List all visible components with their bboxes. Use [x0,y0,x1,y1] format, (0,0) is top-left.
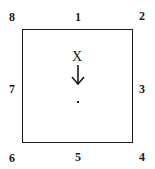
position-label-8: 8 [9,11,15,23]
position-label-4: 4 [139,151,145,163]
x-marker-label: X [72,50,82,64]
position-label-5: 5 [75,151,81,163]
position-label-2: 2 [139,10,145,22]
square-frame [22,29,133,143]
position-label-1: 1 [75,11,81,23]
position-label-3: 3 [139,83,145,95]
center-dot [77,101,79,103]
position-label-7: 7 [9,83,15,95]
arrow-down-icon [70,64,86,86]
position-label-6: 6 [9,152,15,164]
